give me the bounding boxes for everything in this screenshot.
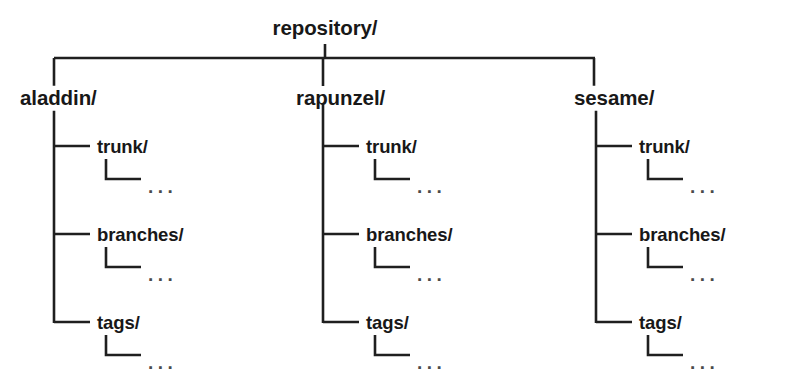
col2-elbow-trunk	[375, 159, 410, 179]
col2-elbow-branches	[375, 247, 410, 267]
node-sesame: sesame/	[574, 86, 659, 111]
col1-elbow-trunk	[106, 159, 141, 179]
ellipsis-rapunzel-branches: ...	[417, 265, 446, 284]
node-sesame-branches: branches/	[634, 224, 730, 247]
ellipsis-aladdin-trunk: ...	[148, 177, 177, 196]
ellipsis-aladdin-tags: ...	[148, 353, 177, 372]
node-sesame-tags: tags/	[634, 312, 686, 335]
col3-elbow-trunk	[648, 159, 683, 179]
ellipsis-sesame-tags: ...	[690, 353, 719, 372]
node-aladdin: aladdin/	[20, 86, 102, 111]
ellipsis-sesame-trunk: ...	[690, 177, 719, 196]
node-repository: repository/	[267, 18, 384, 39]
node-aladdin-trunk: trunk/	[92, 136, 152, 159]
node-sesame-trunk: trunk/	[634, 136, 694, 159]
ellipsis-sesame-branches: ...	[690, 265, 719, 284]
ellipsis-rapunzel-tags: ...	[417, 353, 446, 372]
repository-tree-diagram: repository/ aladdin/ trunk/ ... branches…	[0, 0, 789, 388]
node-rapunzel-trunk: trunk/	[361, 136, 421, 159]
node-rapunzel: rapunzel/	[296, 86, 390, 111]
col1-elbow-tags	[106, 335, 141, 355]
node-aladdin-tags: tags/	[92, 312, 144, 335]
node-aladdin-branches: branches/	[92, 224, 188, 247]
col3-elbow-tags	[648, 335, 683, 355]
node-rapunzel-branches: branches/	[361, 224, 457, 247]
col2-elbow-tags	[375, 335, 410, 355]
node-rapunzel-tags: tags/	[361, 312, 413, 335]
ellipsis-rapunzel-trunk: ...	[417, 177, 446, 196]
ellipsis-aladdin-branches: ...	[148, 265, 177, 284]
col3-elbow-branches	[648, 247, 683, 267]
col1-elbow-branches	[106, 247, 141, 267]
